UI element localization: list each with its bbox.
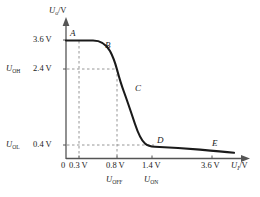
origin-label: 0 [61, 161, 65, 170]
y-tick-label-3-6: 3.6 V [33, 35, 52, 44]
chart-canvas [0, 0, 260, 197]
y-tick-label-0-4: 0.4 V [33, 140, 52, 149]
y-tick-name-uoh: UOH [6, 64, 20, 73]
chart-figure: Uo/V 3.6 V UOH 2.4 V UOL 0.4 V 0 0.3 V 0… [0, 0, 260, 197]
y-tick-name-uol: UOL [6, 140, 20, 149]
uoh-subscript: OH [12, 68, 20, 74]
x-tick-label-0-8: 0.8 V [106, 161, 125, 170]
uoff-subscript: OFF [112, 179, 122, 185]
y-axis-title-subscript: o [55, 10, 58, 16]
x-axis-title-unit: /V [239, 160, 248, 170]
x-tick-label-0-3: 0.3 V [69, 161, 88, 170]
x-axis-title: UI/V [231, 161, 248, 170]
transfer-curve [66, 41, 234, 153]
point-label-c: C [135, 84, 141, 93]
point-label-b: B [105, 41, 111, 50]
x-tick-label-1-4: 1.4 V [142, 161, 161, 170]
x-tick-label-3-6: 3.6 V [201, 161, 220, 170]
point-label-d: D [157, 136, 164, 145]
y-axis-arrow-icon [63, 17, 70, 26]
y-axis-title: Uo/V [49, 6, 66, 15]
x-axis-title-subscript: I [237, 165, 239, 171]
x-annotation-uoff: UOFF [106, 175, 122, 184]
uon-subscript: ON [150, 179, 158, 185]
y-tick-label-2-4: 2.4 V [33, 64, 52, 73]
y-axis-title-unit: /V [58, 5, 67, 15]
uol-subscript: OL [12, 144, 19, 150]
point-label-a: A [70, 29, 76, 38]
x-annotation-uon: UON [144, 175, 158, 184]
point-label-e: E [212, 139, 218, 148]
